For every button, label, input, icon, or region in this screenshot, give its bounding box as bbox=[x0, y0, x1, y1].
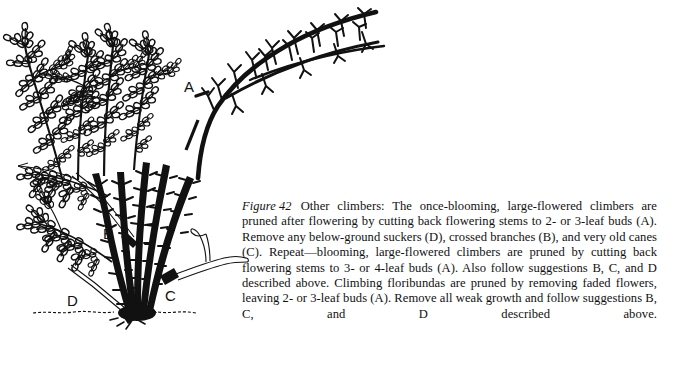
figure-number-label: Figure 42 bbox=[242, 199, 301, 214]
old-cane-C bbox=[160, 229, 248, 285]
figure-caption-text: Other climbers: The once-blooming, large… bbox=[242, 199, 657, 338]
soil-line bbox=[33, 311, 196, 313]
foliage-shoot-4 bbox=[118, 29, 187, 170]
plant-label-C: C bbox=[165, 287, 176, 304]
arching-cane-A bbox=[186, 8, 384, 178]
book-page: A B C D Figure 42 Other climbers: The on… bbox=[0, 0, 673, 365]
plant-label-B: B bbox=[103, 225, 113, 242]
foliage-mass bbox=[1, 20, 186, 278]
foliage-shoot-2 bbox=[37, 31, 109, 180]
figure-caption: Figure 42 Other climbers: The once-bloom… bbox=[242, 199, 657, 338]
plant-label-A: A bbox=[184, 78, 194, 95]
plant-label-D: D bbox=[67, 292, 78, 309]
